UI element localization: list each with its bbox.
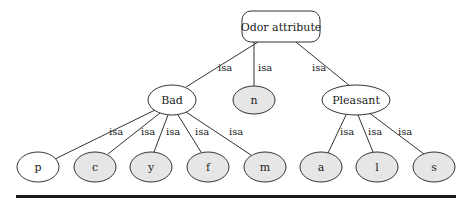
- odor-attribute-hierarchy-diagram: isa isa isa isa isa isa isa isa isa isa …: [0, 0, 472, 200]
- node-odor-attribute: Odor attribute: [241, 11, 322, 42]
- edge-label-bad-c: isa: [141, 126, 155, 137]
- edge-label-pleasant-a: isa: [340, 126, 354, 137]
- edge-label-root-pleasant: isa: [312, 62, 326, 73]
- edge-label-root-bad: isa: [218, 62, 232, 73]
- node-n: n: [233, 86, 275, 114]
- node-bad: Bad: [148, 85, 196, 115]
- y-node-label: y: [147, 161, 155, 174]
- l-node-label: l: [375, 161, 379, 174]
- node-a: a: [300, 152, 342, 182]
- node-m: m: [244, 152, 286, 182]
- node-s: s: [413, 152, 455, 182]
- edge-label-pleasant-l: isa: [368, 126, 382, 137]
- edge-label-bad-y: isa: [166, 126, 180, 137]
- node-c: c: [74, 152, 116, 182]
- node-p: p: [17, 152, 59, 182]
- pleasant-node-label: Pleasant: [332, 94, 380, 107]
- root-node-label: Odor attribute: [241, 21, 322, 34]
- bottom-rule: [16, 195, 456, 198]
- node-f: f: [187, 152, 229, 182]
- node-l: l: [356, 152, 398, 182]
- s-node-label: s: [431, 161, 437, 174]
- p-node-label: p: [34, 161, 41, 174]
- node-y: y: [130, 152, 172, 182]
- a-node-label: a: [318, 161, 325, 174]
- bad-node-label: Bad: [161, 94, 183, 107]
- edge-label-bad-p: isa: [109, 126, 123, 137]
- edge-label-bad-f: isa: [195, 126, 209, 137]
- m-node-label: m: [260, 161, 271, 174]
- edge-bad-p: [55, 110, 155, 159]
- edge-label-pleasant-s: isa: [398, 126, 412, 137]
- node-pleasant: Pleasant: [322, 85, 390, 115]
- edge-label-bad-m: isa: [229, 126, 243, 137]
- c-node-label: c: [92, 161, 98, 174]
- edge-label-root-n: isa: [258, 62, 272, 73]
- n-node-label: n: [250, 94, 257, 107]
